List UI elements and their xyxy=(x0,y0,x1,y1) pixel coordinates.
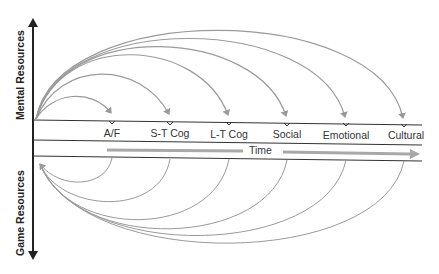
lower-arc-social xyxy=(40,160,287,229)
category-baseline xyxy=(33,120,422,125)
category-label-st-cog: S-T Cog xyxy=(151,127,190,139)
time-arrow-right xyxy=(283,152,410,154)
category-label-social: Social xyxy=(273,128,302,140)
game-resources-label: Game Resources xyxy=(14,170,26,256)
time-arrow-left xyxy=(107,150,243,151)
category-label-lt-cog: L-T Cog xyxy=(210,128,248,140)
resource-diagram: Mental Resources Game Resources Time A/F… xyxy=(0,0,439,274)
lower-arc-st-cog xyxy=(40,159,170,202)
lower-arc-cultural xyxy=(40,161,404,243)
band-bottom-line xyxy=(33,156,422,161)
category-label-af: A/F xyxy=(104,127,120,139)
lower-arc-af xyxy=(40,158,112,182)
category-label-emotional: Emotional xyxy=(323,129,370,141)
category-label-cultural: Cultural xyxy=(388,129,424,141)
upper-arc-social xyxy=(36,47,286,119)
lower-arc-lt-cog xyxy=(40,159,229,220)
time-label: Time xyxy=(249,144,272,156)
mental-resources-label: Mental Resources xyxy=(14,30,26,120)
upper-arc-lt-cog xyxy=(36,55,228,119)
time-arrowhead xyxy=(410,149,420,159)
upper-arc-emotional xyxy=(36,38,345,119)
tick-st-cog xyxy=(167,122,173,125)
lower-arc-emotional xyxy=(40,160,346,236)
